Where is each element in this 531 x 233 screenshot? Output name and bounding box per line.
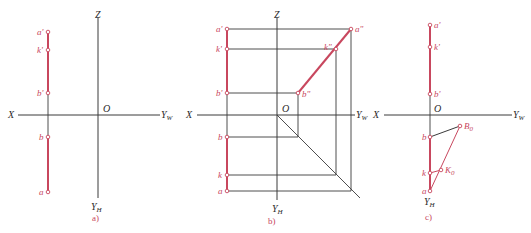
yw-label: YW (513, 109, 526, 122)
label-b-prime: b' (216, 88, 224, 98)
point-b-prime (428, 92, 432, 96)
origin-label: O (434, 103, 441, 114)
point-a (225, 189, 229, 193)
45-degree-line (277, 115, 360, 198)
point-k-prime (428, 45, 432, 49)
label-a-dprime: a" (355, 24, 364, 34)
label-a: a (218, 186, 223, 196)
projection-diagram: Z X O YW YH a' k' b' b a a) (0, 0, 531, 233)
point-b (46, 135, 50, 139)
point-B0 (458, 124, 462, 128)
label-a: a (39, 187, 44, 197)
point-b-prime (225, 91, 229, 95)
label-b: b (39, 132, 44, 142)
yh-label: YH (272, 203, 284, 216)
point-b (225, 135, 229, 139)
point-k-dprime (334, 47, 338, 51)
label-b-prime: b' (37, 88, 45, 98)
label-a-prime: a' (434, 20, 442, 30)
label-b: b (422, 132, 427, 142)
label-k-prime: k' (434, 42, 441, 52)
caption-b: b) (268, 216, 276, 226)
label-b-prime: b' (434, 89, 442, 99)
point-a-dprime (349, 27, 353, 31)
label-k-dprime: k" (324, 42, 332, 52)
point-a (46, 190, 50, 194)
label-k-prime: k' (37, 45, 44, 55)
point-a (428, 189, 432, 193)
point-a-prime (46, 30, 50, 34)
label-B0: B0 (464, 121, 474, 133)
label-a-prime: a' (37, 27, 45, 37)
point-a-prime (428, 23, 432, 27)
label-k: k (218, 170, 223, 180)
origin-label: O (282, 103, 289, 114)
yw-label: YW (161, 109, 174, 122)
x-label: X (185, 109, 193, 120)
label-K0: K0 (444, 165, 455, 177)
point-b-dprime (296, 91, 300, 95)
label-b: b (218, 132, 223, 142)
point-k-prime (225, 47, 229, 51)
caption-c: c) (425, 212, 432, 222)
point-k-prime (46, 48, 50, 52)
panel-a: Z X O YW YH a' k' b' b a a) (7, 9, 174, 223)
point-b-prime (46, 91, 50, 95)
point-k (428, 171, 432, 175)
panel-c: X O YW YH a' k' b' b k a B0 K0 c) (372, 20, 526, 222)
origin-label: O (103, 103, 110, 114)
point-a-prime (225, 27, 229, 31)
z-label: Z (274, 9, 280, 20)
label-k: k (422, 168, 427, 178)
yw-label: YW (356, 109, 369, 122)
panel-b: Z X O YW YH a' k' b' b k a a" k" b" b) (185, 9, 369, 226)
label-a-prime: a' (216, 24, 224, 34)
label-a: a (422, 186, 427, 196)
caption-a: a) (92, 213, 99, 223)
x-label: X (372, 109, 380, 120)
yh-label: YH (424, 196, 436, 209)
x-label: X (7, 109, 15, 120)
label-k-prime: k' (216, 44, 223, 54)
point-K0 (439, 168, 443, 172)
z-label: Z (95, 9, 101, 20)
point-b (428, 135, 432, 139)
point-k (225, 173, 229, 177)
label-b-dprime: b" (302, 89, 311, 99)
side-view-line (298, 29, 351, 93)
